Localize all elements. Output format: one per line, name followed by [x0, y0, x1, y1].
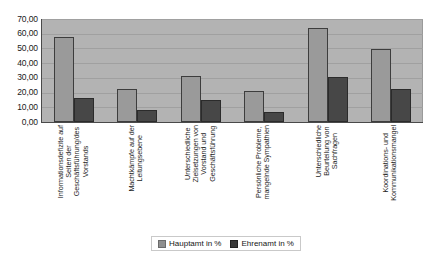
square-swatch-dark-icon [230, 240, 238, 248]
y-axis-tick-label: 30,00 [17, 73, 38, 82]
y-axis: 70,0060,0050,0040,0030,0020,0010,000,00 [0, 14, 41, 126]
bar [264, 112, 284, 122]
plot-area [41, 19, 423, 123]
x-axis-category-label: Machtkämpfe auf der Leitungsebene [128, 125, 144, 192]
bar [391, 89, 411, 122]
x-axis-label-cell: Persönliche Probleme, mangelnde Sympathi… [232, 123, 296, 231]
x-axis-category-label: Persönliche Probleme, mangelnde Sympathi… [255, 125, 271, 200]
x-axis-label-cell: Informationsdefizite auf Seiten der Gesc… [41, 123, 105, 231]
legend-item-label: Ehrenamt in % [241, 239, 293, 248]
bar [308, 28, 328, 122]
bar [54, 37, 74, 122]
bar-groups [42, 19, 423, 122]
bar-group [233, 19, 297, 122]
y-axis-tick-label: 70,00 [17, 15, 38, 24]
x-axis-label-cell: Unterschiedliche Zielsetzungen von Vorst… [168, 123, 232, 231]
y-axis-tick-label: 60,00 [17, 29, 38, 38]
bar [137, 110, 157, 122]
bar-chart: 70,0060,0050,0040,0030,0020,0010,000,00 … [0, 0, 429, 263]
square-swatch-gray-icon [158, 240, 166, 248]
x-axis-label-cell: Machtkämpfe auf der Leitungsebene [105, 123, 169, 231]
chart-legend: Hauptamt in % Ehrenamt in % [151, 236, 301, 251]
x-axis-label-cell: Koordinations- und Kommunikationsmangel [359, 123, 423, 231]
y-axis-tick-label: 50,00 [17, 44, 38, 53]
bar-group [106, 19, 170, 122]
legend-item: Ehrenamt in % [230, 239, 293, 248]
y-axis-tick-label: 20,00 [17, 88, 38, 97]
bar [74, 98, 94, 122]
bar [117, 89, 137, 122]
y-axis-tick-label: 10,00 [17, 103, 38, 112]
y-axis-tick-label: 40,00 [17, 59, 38, 68]
x-axis-category-label: Unterschiedliche Beurteilung von Sachfra… [314, 125, 339, 177]
x-axis-category-labels: Informationsdefizite auf Seiten der Gesc… [41, 123, 422, 231]
bar [328, 77, 348, 122]
legend-item-label: Hauptamt in % [169, 239, 221, 248]
bar-group [42, 19, 106, 122]
bar-group [360, 19, 424, 122]
x-axis-category-label: Koordinations- und Kommunikationsmangel [382, 125, 398, 201]
bar [244, 91, 264, 122]
x-axis-category-label: Informationsdefizite auf Seiten der Gesc… [56, 125, 89, 198]
bar-group [169, 19, 233, 122]
y-axis-tick-label: 0,00 [22, 118, 38, 127]
x-axis-category-label: Unterschiedliche Zielsetzungen von Vorst… [183, 125, 216, 183]
bar [201, 100, 221, 122]
bar [181, 76, 201, 122]
x-axis-label-cell: Unterschiedliche Beurteilung von Sachfra… [295, 123, 359, 231]
bar-group [296, 19, 360, 122]
legend-item: Hauptamt in % [158, 239, 221, 248]
bar [371, 49, 391, 122]
